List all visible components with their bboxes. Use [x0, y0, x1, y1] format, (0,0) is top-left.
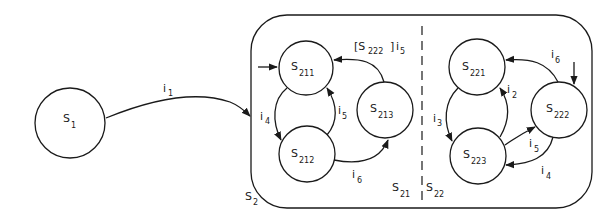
guard-open: [S	[354, 40, 365, 53]
transition-s1-to-s2[interactable]: i 1	[106, 82, 250, 118]
state-s222-label: S	[546, 102, 553, 115]
state-s1-label: S	[63, 112, 70, 125]
state-s221[interactable]: S 221	[449, 39, 505, 95]
transition-i4-s22-sub: 4	[546, 172, 551, 181]
transition-guarded-i5-sub: 5	[400, 47, 405, 56]
state-s212[interactable]: S 212	[279, 126, 335, 182]
transition-s223-to-s222[interactable]: i 5	[505, 127, 539, 154]
state-s1[interactable]: S 1	[35, 88, 105, 158]
transition-i5-sub: 5	[342, 112, 347, 121]
statechart-diagram: S 1 i 1 S 2 S 21 S 22 S 211 S 212 S 213 …	[0, 0, 612, 220]
transition-i1-label: i	[163, 82, 166, 95]
transition-s212-to-s213[interactable]: i 6	[334, 140, 388, 185]
guard-sub: 222	[368, 47, 383, 56]
state-s221-sub: 221	[470, 69, 485, 78]
state-s222-sub: 222	[554, 111, 569, 120]
transition-s211-to-s212[interactable]: i 4	[260, 88, 287, 140]
state-s1-sub: 1	[71, 121, 76, 130]
transition-i2-label: i	[507, 83, 510, 96]
state-s2-sub: 2	[253, 198, 258, 207]
state-s221-label: S	[462, 60, 469, 73]
guard-close: ]	[390, 40, 394, 53]
state-s2[interactable]: S 2	[245, 15, 592, 208]
transition-i3-sub: 3	[437, 119, 442, 128]
transition-s213-to-s211[interactable]: [S 222 ] i 5	[334, 40, 405, 82]
state-s211-label: S	[291, 60, 298, 73]
svg-text:S: S	[63, 112, 70, 125]
transition-i4-s22-label: i	[541, 164, 544, 177]
svg-text:[S: [S	[354, 40, 365, 53]
region-s22-sub: 22	[434, 190, 444, 199]
state-s212-label: S	[291, 147, 298, 160]
transition-i5-s22-label: i	[529, 137, 532, 150]
transition-i5-label: i	[338, 104, 341, 117]
transition-i1-sub: 1	[168, 89, 173, 98]
state-s213-sub: 213	[378, 111, 393, 120]
state-s223[interactable]: S 223	[450, 128, 506, 184]
transition-s222-to-s221[interactable]: i 6	[506, 48, 560, 82]
state-s211[interactable]: S 211	[279, 41, 333, 95]
state-s211-sub: 211	[299, 69, 314, 78]
region-s22-label: S	[426, 181, 433, 194]
transition-i4-label: i	[260, 110, 263, 123]
transition-i5-s22-sub: 5	[534, 145, 539, 154]
transition-i6-s22-sub: 6	[555, 56, 560, 65]
transition-s223-to-s221[interactable]: i 2	[500, 83, 517, 137]
transition-s212-to-s211[interactable]: i 5	[327, 88, 347, 135]
state-s223-sub: 223	[471, 157, 486, 166]
region-s21-sub: 21	[400, 190, 410, 199]
transition-i3-label: i	[433, 112, 436, 125]
transition-i2-sub: 2	[512, 91, 517, 100]
region-s21-label: S	[392, 181, 399, 194]
state-s2-label: S	[245, 190, 252, 203]
state-s212-sub: 212	[299, 156, 314, 165]
transition-i6-label: i	[352, 168, 355, 181]
state-s223-label: S	[463, 148, 470, 161]
state-s213-label: S	[370, 102, 377, 115]
state-s222[interactable]: S 222	[531, 82, 587, 138]
transition-i6-sub: 6	[357, 176, 362, 185]
transition-i4-sub: 4	[265, 117, 270, 126]
transition-guarded-i5-label: i	[396, 40, 399, 53]
transition-i6-s22-label: i	[551, 48, 554, 61]
transition-s221-to-s223[interactable]: i 3	[433, 88, 458, 141]
state-s213[interactable]: S 213	[357, 82, 413, 138]
